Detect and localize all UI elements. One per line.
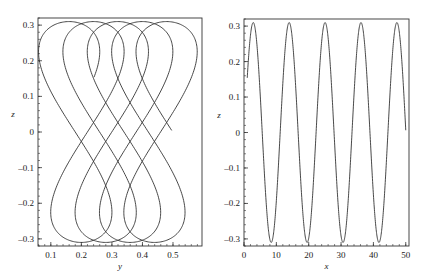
chart-figure: 0.30.20.10–0.1–0.2–0.30.10.20.30.40.5yz … xyxy=(0,0,423,280)
y-tick-label: –0.1 xyxy=(17,163,34,173)
y-tick-label: 0.2 xyxy=(229,57,240,67)
y-tick-label: 0.1 xyxy=(23,91,34,101)
x-tick-label: 10 xyxy=(272,250,282,260)
y-axis-label: z xyxy=(10,109,15,119)
y-tick-label: 0 xyxy=(30,127,35,137)
x-tick-label: 0.5 xyxy=(167,250,179,260)
x-tick-label: 40 xyxy=(369,250,379,260)
x-tick-label: 0 xyxy=(242,250,247,260)
y-axis-label: z xyxy=(216,110,221,120)
data-curve xyxy=(247,23,406,243)
x-tick-label: 0.1 xyxy=(45,250,56,260)
x-tick-label: 30 xyxy=(337,250,347,260)
y-tick-label: –0.3 xyxy=(223,234,240,244)
x-axis: 01020304050 xyxy=(242,242,411,260)
data-curve xyxy=(39,22,198,243)
y-tick-label: –0.2 xyxy=(223,198,240,208)
y-tick-label: –0.1 xyxy=(223,163,240,173)
y-tick-label: –0.2 xyxy=(17,198,34,208)
x-axis-label: x xyxy=(324,261,329,271)
x-tick-label: 0.3 xyxy=(106,250,118,260)
x-tick-label: 0.4 xyxy=(137,250,149,260)
x-axis: 0.10.20.30.40.5 xyxy=(39,242,198,260)
y-tick-label: 0 xyxy=(236,128,241,138)
y-tick-label: 0.2 xyxy=(23,56,34,66)
x-axis-label: y xyxy=(117,261,122,271)
x-tick-label: 50 xyxy=(401,250,411,260)
right-plot-xz: 0.30.20.10–0.1–0.2–0.301020304050xz xyxy=(216,19,411,271)
y-tick-label: 0.1 xyxy=(229,92,240,102)
x-tick-label: 20 xyxy=(304,250,314,260)
y-tick-label: –0.3 xyxy=(17,234,34,244)
plot-frame xyxy=(244,19,409,246)
y-tick-label: 0.3 xyxy=(23,20,35,30)
left-plot-yz: 0.30.20.10–0.1–0.2–0.30.10.20.30.40.5yz xyxy=(10,18,202,271)
x-tick-label: 0.2 xyxy=(76,250,87,260)
y-tick-label: 0.3 xyxy=(229,21,241,31)
